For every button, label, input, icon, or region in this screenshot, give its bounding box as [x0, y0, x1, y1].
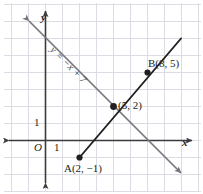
x-tick-label-1: 1	[54, 142, 60, 153]
point-intersection-label: (5, 2)	[118, 100, 142, 111]
coordinate-plane-figure: y x O 1 1 y = −x + 7 B(8, 5) (5, 2) A(2,…	[0, 0, 203, 194]
equation-line	[29, 21, 181, 173]
x-axis-label: x	[182, 137, 188, 148]
point-b-marker	[144, 69, 150, 75]
origin-label: O	[34, 142, 42, 153]
point-intersection-marker	[110, 103, 117, 110]
point-b-label: B(8, 5)	[148, 58, 179, 69]
point-a-marker	[76, 154, 82, 160]
point-a-label: A(2, −1)	[64, 163, 102, 174]
y-axis-label: y	[41, 12, 46, 23]
y-tick-label-1: 1	[34, 117, 40, 128]
